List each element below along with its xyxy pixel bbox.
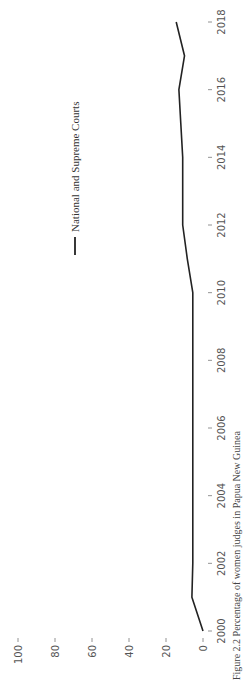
figure-caption: Figure 2.2 Percentage of women judges in… bbox=[231, 431, 242, 680]
y-tick-label: 60 bbox=[87, 645, 98, 658]
x-tick-label: 2018 bbox=[216, 9, 227, 34]
line-chart: 020406080100 200020022004200620082010201… bbox=[0, 0, 247, 682]
chart-container: 020406080100 200020022004200620082010201… bbox=[0, 0, 247, 682]
x-tick-label: 2006 bbox=[216, 415, 227, 440]
y-tick-label: 20 bbox=[161, 645, 172, 658]
y-axis: 020406080100 bbox=[13, 638, 209, 664]
legend: National and Supreme Courts bbox=[69, 102, 81, 255]
y-tick-label: 40 bbox=[124, 645, 135, 658]
x-tick-label: 2012 bbox=[216, 212, 227, 237]
x-tick-label: 2010 bbox=[216, 280, 227, 305]
legend-label: National and Supreme Courts bbox=[69, 102, 81, 232]
x-tick-label: 2000 bbox=[216, 618, 227, 643]
y-tick-label: 100 bbox=[13, 645, 24, 664]
x-tick-label: 2008 bbox=[216, 348, 227, 373]
x-axis: 2000200220042006200820102012201420162018 bbox=[208, 9, 227, 643]
x-tick-label: 2014 bbox=[216, 145, 227, 170]
x-tick-label: 2002 bbox=[216, 551, 227, 576]
series-line-national-supreme-courts bbox=[176, 22, 203, 631]
y-tick-label: 0 bbox=[198, 645, 209, 651]
y-tick-label: 80 bbox=[50, 645, 61, 658]
x-tick-label: 2004 bbox=[216, 483, 227, 508]
x-tick-label: 2016 bbox=[216, 77, 227, 102]
